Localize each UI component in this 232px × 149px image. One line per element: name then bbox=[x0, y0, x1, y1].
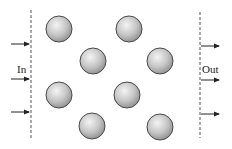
outlet-arrows bbox=[201, 46, 219, 114]
inlet-arrows bbox=[11, 44, 29, 112]
spheres bbox=[46, 16, 173, 140]
sphere-particle bbox=[46, 82, 72, 108]
sphere-particle bbox=[116, 16, 142, 42]
sphere-particle bbox=[79, 113, 105, 139]
inlet-label: In bbox=[17, 63, 27, 75]
flow-diagram: In Out bbox=[0, 0, 232, 149]
sphere-particle bbox=[114, 82, 140, 108]
sphere-particle bbox=[147, 48, 173, 74]
sphere-particle bbox=[147, 114, 173, 140]
sphere-particle bbox=[80, 48, 106, 74]
outlet-label: Out bbox=[202, 63, 219, 75]
sphere-particle bbox=[46, 16, 72, 42]
